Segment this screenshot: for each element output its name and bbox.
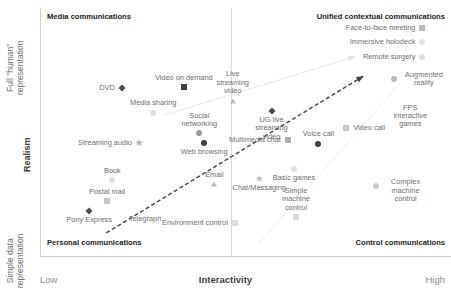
circle-marker-icon — [150, 110, 156, 116]
data-point-label: Web browsing — [181, 148, 228, 156]
triangle-marker-icon — [211, 181, 217, 186]
data-point-label: Book — [104, 167, 121, 175]
data-point-label: Email — [205, 171, 223, 179]
star-marker-icon: ★ — [134, 140, 143, 146]
circle-marker-icon — [391, 76, 397, 82]
data-point-label: Simple machine control — [270, 187, 322, 212]
data-point-label: Video on demand — [155, 74, 213, 82]
square-marker-icon — [285, 137, 291, 143]
data-point-label: Multimedia chat — [229, 136, 281, 144]
circle-marker-icon — [419, 54, 425, 60]
square-marker-icon — [104, 198, 110, 204]
circle-marker-icon — [196, 130, 202, 136]
data-point-label: Media sharing — [130, 99, 176, 107]
data-point-label: Telegraph — [129, 215, 161, 223]
circle-marker-icon — [315, 141, 321, 147]
data-point-label: Streaming audio — [78, 139, 132, 147]
data-point-label: Environment control — [162, 219, 228, 227]
square-marker-icon — [293, 214, 299, 220]
quadrant-scatter-chart: Full "human"representation Realism Simpl… — [0, 0, 451, 294]
data-point-label: DVD — [99, 84, 115, 92]
star-marker-icon: ★ — [255, 176, 264, 182]
data-point-label: Basic games — [273, 174, 315, 182]
data-point-label: Video call — [353, 124, 385, 132]
circle-marker-icon — [291, 166, 297, 172]
square-marker-icon — [232, 220, 238, 226]
data-point-label: Voice call — [303, 130, 334, 138]
square-marker-icon — [343, 125, 349, 131]
square-marker-icon — [181, 84, 187, 90]
data-point-label: Complex machine control — [383, 178, 429, 203]
data-point-label: FPS interactive games — [388, 104, 432, 129]
data-point-label: Face-to-face meeting — [346, 24, 416, 32]
circle-marker-icon — [109, 177, 115, 183]
data-point-label: Augmented reality — [401, 71, 447, 88]
data-point-label: Remote surgery — [363, 53, 416, 61]
circle-marker-icon — [373, 183, 379, 189]
circle-marker-icon — [201, 140, 207, 146]
data-point-label: Social networking — [179, 112, 219, 129]
data-point-label: Postal mail — [89, 188, 125, 196]
triangle-marker-icon — [230, 98, 236, 103]
square-marker-icon — [419, 25, 425, 31]
data-point-label: Live streaming video — [213, 70, 253, 95]
data-point-label: Immersive holodeck — [350, 38, 416, 46]
circle-marker-icon — [419, 39, 425, 45]
data-point-label: Pony Express — [66, 216, 112, 224]
